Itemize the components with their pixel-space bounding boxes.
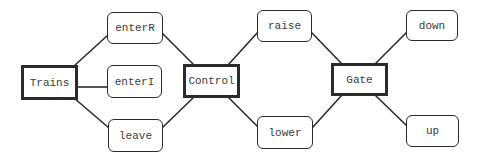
node-label: Control: [188, 75, 234, 87]
edge-gate-up: [375, 95, 407, 126]
node-label: enterI: [115, 76, 155, 88]
node-label: lower: [268, 127, 301, 139]
node-label: up: [426, 125, 439, 137]
node-label: down: [419, 20, 445, 32]
edge-trains-enterR: [74, 35, 108, 66]
node-lower: lower: [257, 116, 313, 149]
node-label: leave: [119, 130, 152, 142]
edge-trains-leave: [74, 98, 109, 128]
edge-enterR-control: [162, 33, 194, 65]
node-label: Gate: [346, 74, 372, 86]
node-label: Trains: [30, 77, 70, 89]
node-label: raise: [268, 20, 301, 32]
node-enterR: enterR: [107, 12, 163, 44]
node-trains: Trains: [21, 65, 78, 100]
edge-leave-control: [162, 97, 194, 128]
edge-control-raise: [228, 32, 258, 65]
node-label: enterR: [115, 22, 155, 34]
edge-lower-gate: [312, 95, 342, 128]
node-raise: raise: [257, 10, 312, 42]
node-control: Control: [183, 64, 240, 98]
node-gate: Gate: [331, 63, 388, 96]
node-down: down: [406, 10, 458, 41]
edge-raise-gate: [311, 32, 342, 64]
edge-control-lower: [228, 97, 258, 127]
node-up: up: [406, 115, 459, 147]
node-enterI: enterI: [107, 65, 162, 98]
edge-gate-down: [375, 32, 407, 64]
node-leave: leave: [108, 119, 163, 152]
